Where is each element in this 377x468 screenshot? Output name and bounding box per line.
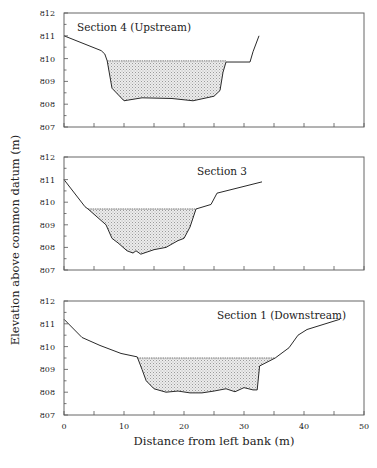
y-axis-title: Elevation above common datum (m) (8, 135, 22, 345)
y-tick-label: 812 (40, 297, 55, 306)
panel-title: Section 1 (Downstream) (217, 309, 346, 321)
y-tick-label: 808 (40, 100, 55, 109)
x-tick-label: 0 (61, 422, 66, 431)
panel-title: Section 3 (197, 165, 247, 177)
y-tick-label: 809 (40, 77, 55, 86)
water-area (137, 357, 275, 393)
y-tick-label: 807 (40, 411, 55, 420)
x-tick-label: 10 (119, 422, 129, 431)
water-area (88, 209, 196, 254)
x-tick-label: 30 (239, 422, 249, 431)
y-tick-label: 808 (40, 243, 55, 252)
panel-1: 807808809810811812Section 4 (Upstream) (40, 9, 364, 132)
y-tick-label: 812 (40, 9, 55, 18)
y-tick-label: 811 (40, 32, 55, 41)
y-tick-label: 810 (40, 198, 55, 207)
y-tick-label: 811 (40, 320, 55, 329)
y-tick-label: 809 (40, 221, 55, 230)
panel-3: 80780880981081181201020304050Section 1 (… (40, 297, 369, 431)
y-tick-label: 807 (40, 123, 55, 132)
y-tick-label: 807 (40, 266, 55, 275)
panel-title: Section 4 (Upstream) (77, 21, 191, 33)
panel-2: 807808809810811812Section 3 (40, 153, 364, 275)
cross-section-figure: 807808809810811812Section 4 (Upstream)80… (0, 0, 377, 468)
x-axis-title: Distance from left bank (m) (134, 434, 295, 448)
y-tick-label: 809 (40, 365, 55, 374)
x-tick-label: 40 (299, 422, 309, 431)
y-tick-label: 810 (40, 55, 55, 64)
y-tick-label: 808 (40, 388, 55, 397)
y-tick-label: 810 (40, 343, 55, 352)
water-area (107, 61, 226, 101)
y-tick-label: 811 (40, 176, 55, 185)
x-tick-label: 20 (179, 422, 189, 431)
y-tick-label: 812 (40, 153, 55, 162)
x-tick-label: 50 (359, 422, 369, 431)
